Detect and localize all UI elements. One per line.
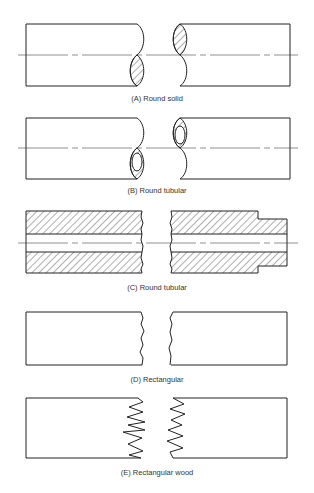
caption-c: (C) Round tubular — [0, 283, 314, 292]
caption-a: (A) Round solid — [0, 94, 314, 103]
panel-d-rectangular — [26, 312, 287, 365]
break-lines-diagram — [0, 0, 314, 493]
panel-a-round-solid — [18, 24, 298, 86]
caption-b: (B) Round tubular — [0, 186, 314, 195]
caption-d: (D) Rectangular — [0, 375, 314, 384]
panel-b-round-tubular — [18, 118, 298, 179]
caption-e: (E) Rectangular wood — [0, 468, 314, 477]
panel-c-round-tubular-section — [18, 211, 298, 273]
panel-e-rectangular-wood — [26, 398, 287, 458]
